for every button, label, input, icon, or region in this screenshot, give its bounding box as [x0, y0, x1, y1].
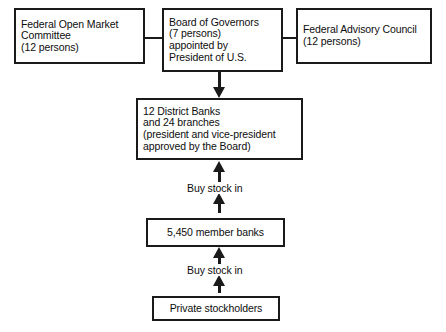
- node-district-banks-label: 12 District Banks and 24 branches (presi…: [138, 106, 276, 152]
- edge-label-buy-stock-in-upper: Buy stock in: [187, 182, 242, 194]
- connector-fomc-to-board-of-governors: [145, 37, 163, 39]
- node-federal-open-market-committee: Federal Open Market Committee (12 person…: [14, 8, 145, 64]
- arrowhead-up-to-district-banks: [213, 161, 225, 172]
- arrowhead-up-to-buy-stock-label-upper: [213, 193, 225, 204]
- arrowhead-down-to-district-banks: [213, 87, 225, 98]
- node-federal-advisory-council: Federal Advisory Council (12 persons): [296, 8, 432, 64]
- node-board-of-governors-label: Board of Governors (7 persons) appointed…: [164, 17, 259, 63]
- edge-label-buy-stock-in-lower: Buy stock in: [187, 264, 242, 276]
- node-member-banks-label: 5,450 member banks: [148, 227, 283, 239]
- node-private-stockholders: Private stockholders: [152, 296, 280, 321]
- node-district-banks: 12 District Banks and 24 branches (presi…: [136, 98, 303, 160]
- node-board-of-governors: Board of Governors (7 persons) appointed…: [162, 8, 283, 72]
- federal-reserve-structure-diagram: Federal Open Market Committee (12 person…: [0, 0, 446, 332]
- node-private-stockholders-label: Private stockholders: [154, 303, 278, 315]
- node-federal-advisory-council-label: Federal Advisory Council (12 persons): [298, 24, 417, 47]
- arrowhead-up-to-buy-stock-label-lower: [213, 275, 225, 286]
- node-member-banks: 5,450 member banks: [146, 218, 285, 247]
- node-federal-open-market-committee-label: Federal Open Market Committee (12 person…: [16, 19, 118, 54]
- arrowhead-up-to-member-banks: [213, 247, 225, 258]
- connector-board-of-governors-to-advisory-council: [283, 37, 297, 39]
